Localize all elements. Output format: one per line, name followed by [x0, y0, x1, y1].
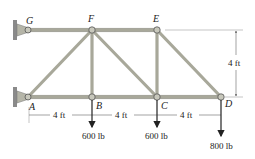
member-ed — [157, 30, 221, 97]
vertical-dimension: 4 ft — [165, 30, 243, 97]
dim-panel-3: 4 ft — [180, 110, 193, 120]
label-e: E — [152, 13, 159, 24]
truss-members — [28, 30, 221, 97]
label-f: F — [87, 13, 95, 24]
horizontal-dimension: 4 ft 4 ft 4 ft — [29, 107, 221, 123]
truss-diagram: G F E A B C D 4 ft 4 ft 4 ft 4 ft 600 lb… — [0, 0, 255, 159]
joint-e — [154, 27, 160, 33]
member-af — [28, 30, 92, 97]
load-c-label: 600 lb — [145, 131, 168, 141]
label-g: G — [26, 15, 33, 26]
joint-c — [154, 94, 160, 100]
label-d: D — [224, 98, 233, 109]
joint-d — [218, 94, 224, 100]
joint-g — [25, 27, 31, 33]
joint-f — [89, 27, 95, 33]
dim-panel-1: 4 ft — [53, 110, 66, 120]
joint-b — [89, 94, 95, 100]
load-d-label: 800 lb — [210, 141, 233, 151]
dim-height: 4 ft — [228, 58, 241, 68]
member-fc — [92, 30, 157, 97]
joint-a — [25, 94, 31, 100]
label-b: B — [96, 100, 102, 111]
load-b-label: 600 lb — [82, 131, 105, 141]
dim-panel-2: 4 ft — [115, 110, 128, 120]
label-c: C — [161, 100, 168, 111]
